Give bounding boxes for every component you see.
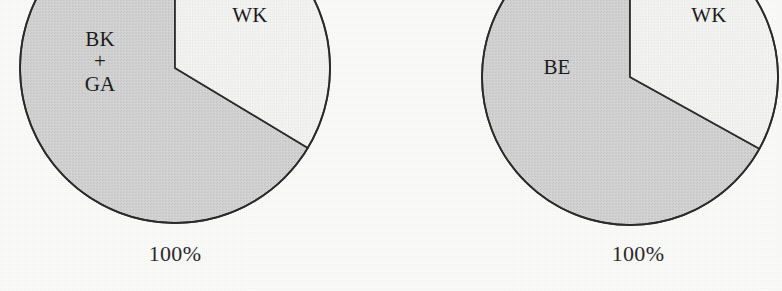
right-pie-graphic [391, 0, 782, 291]
pie-chart-figure: WK BK + GA 100% [0, 0, 782, 291]
left-pie-label-wk: WK [210, 4, 290, 26]
right-pie-label-wk: WK [669, 4, 749, 26]
right-pie-label-be: BE [517, 56, 597, 78]
left-pie-total-label: 100% [125, 241, 225, 267]
right-pie-total-label: 100% [588, 241, 688, 267]
left-pie-label-bkga: BK + GA [60, 28, 140, 95]
left-pie-figure: WK BK + GA 100% [0, 0, 391, 291]
right-pie-figure: WK BE 100% [391, 0, 782, 291]
